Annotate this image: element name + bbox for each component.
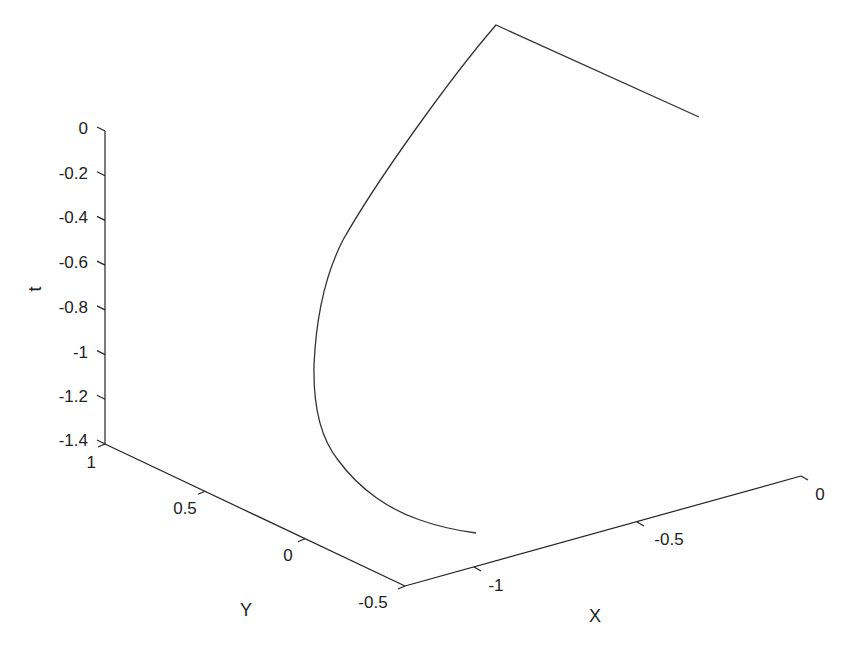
t-tick-label: -0.8 bbox=[59, 298, 88, 317]
y-axis-label: Y bbox=[240, 600, 252, 620]
trajectory-curve bbox=[314, 25, 699, 533]
t-tick-label: -0.4 bbox=[59, 208, 88, 227]
t-axis-label: t bbox=[25, 286, 45, 291]
x-axis: -1 -0.5 0 X bbox=[405, 476, 825, 626]
y-tick-label: 0.5 bbox=[173, 499, 197, 518]
t-tick-label: -1.4 bbox=[59, 431, 88, 450]
y-tick-label: 1 bbox=[87, 453, 96, 472]
chart-canvas: 0 -0.2 -0.4 -0.6 -0.8 -1 -1.2 -1.4 t 1 0… bbox=[0, 0, 850, 652]
t-tick-label: -0.2 bbox=[59, 164, 88, 183]
x-axis-label: X bbox=[589, 606, 601, 626]
x-tick-label: 0 bbox=[815, 485, 824, 504]
x-tick-label: -0.5 bbox=[654, 530, 683, 549]
t-tick-label: -0.6 bbox=[59, 253, 88, 272]
t-tick-label: -1 bbox=[73, 343, 88, 362]
t-axis: 0 -0.2 -0.4 -0.6 -0.8 -1 -1.2 -1.4 t bbox=[25, 119, 105, 450]
t-tick-label: -1.2 bbox=[59, 387, 88, 406]
y-tick-label: -0.5 bbox=[358, 593, 387, 612]
y-axis: 1 0.5 0 -0.5 Y bbox=[87, 444, 405, 620]
y-tick-label: 0 bbox=[283, 546, 292, 565]
t-tick-label: 0 bbox=[79, 119, 88, 138]
x-tick-label: -1 bbox=[488, 576, 503, 595]
